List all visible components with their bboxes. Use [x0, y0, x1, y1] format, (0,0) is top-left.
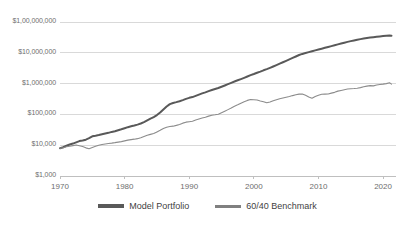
y-tick-label: $1,000: [35, 171, 56, 178]
chart-legend: Model Portfolio 60/40 Benchmark: [0, 201, 415, 211]
x-tick-label: 1970: [40, 182, 80, 191]
legend-label-model-portfolio: Model Portfolio: [129, 201, 189, 211]
legend-item-benchmark[interactable]: 60/40 Benchmark: [215, 201, 317, 211]
legend-swatch-model-portfolio: [98, 204, 124, 208]
legend-swatch-benchmark: [215, 205, 241, 208]
y-tick-label: $1,00,000,000: [13, 17, 56, 24]
legend-item-model-portfolio[interactable]: Model Portfolio: [98, 201, 189, 211]
x-tick-label: 2000: [234, 182, 274, 191]
x-tick-label: 1990: [169, 182, 209, 191]
legend-label-benchmark: 60/40 Benchmark: [246, 201, 317, 211]
x-tick-label: 2010: [298, 182, 338, 191]
series-line: [60, 83, 391, 149]
y-tick-label: $10,000,000: [18, 48, 56, 55]
chart-plot-area: [0, 0, 415, 227]
x-tick-label: 1980: [105, 182, 145, 191]
chart-container: $1,00,000,000$10,000,000$1,000,000$100,0…: [0, 0, 415, 227]
y-tick-label: $10,000: [31, 140, 56, 147]
y-tick-label: $1,000,000: [22, 79, 56, 86]
x-tick-label: 2020: [363, 182, 403, 191]
y-tick-label: $100,000: [28, 109, 56, 116]
